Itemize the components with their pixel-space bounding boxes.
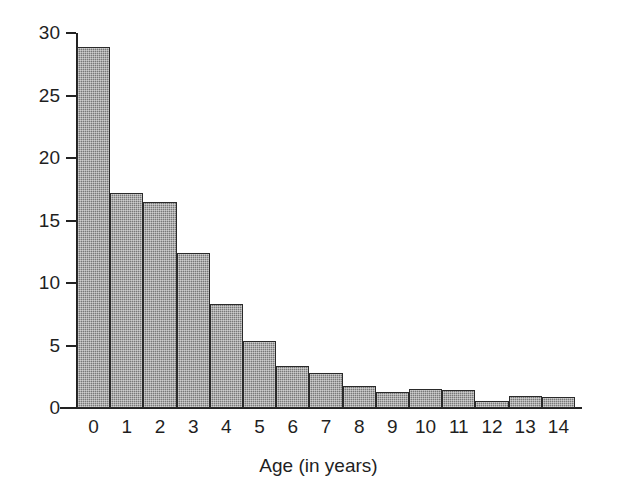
y-tick-label: 0 (0, 397, 60, 419)
bar-chart-figure: Rate per million per year 051015202530 0… (0, 0, 617, 491)
bar (210, 304, 243, 408)
bar (542, 397, 575, 408)
y-tick-label: 15 (0, 210, 60, 232)
x-axis-label-text: Age (in years) (259, 455, 377, 477)
bar (409, 389, 442, 408)
y-tick-label: 25 (0, 85, 60, 107)
bar (343, 386, 376, 409)
y-tick-mark (66, 95, 76, 97)
y-tick-label: 10 (0, 272, 60, 294)
y-tick-label: 30 (0, 22, 60, 44)
bar (509, 396, 542, 408)
bar (442, 390, 475, 408)
y-tick-label: 5 (0, 335, 60, 357)
bar (110, 193, 143, 408)
bar (143, 202, 176, 408)
y-tick-mark (66, 345, 76, 347)
y-tick-mark (66, 282, 76, 284)
bar (475, 401, 508, 409)
bar (276, 366, 309, 409)
bar (309, 373, 342, 408)
y-tick-mark (66, 32, 76, 34)
y-tick-label: 20 (0, 147, 60, 169)
bar (243, 341, 276, 409)
bar (376, 392, 409, 408)
bar (177, 253, 210, 408)
y-tick-mark (66, 220, 76, 222)
x-tick-label: 14 (538, 416, 578, 438)
y-tick-mark (66, 407, 76, 409)
x-axis-label: Age (in years) (0, 455, 617, 477)
y-tick-mark (66, 157, 76, 159)
bar (77, 47, 110, 408)
plot-area (77, 33, 575, 408)
